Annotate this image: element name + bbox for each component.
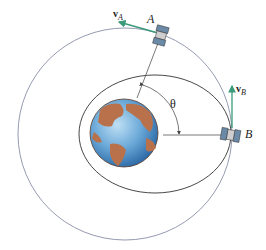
velocity-a-subscript: A — [118, 13, 123, 22]
orbit-diagram: A B θ vA vB — [0, 0, 266, 250]
diagram-svg — [0, 0, 266, 250]
label-velocity-b: vB — [236, 84, 246, 97]
velocity-b-subscript: B — [241, 88, 246, 97]
label-velocity-a: vA — [113, 9, 123, 22]
label-point-b: B — [245, 128, 252, 140]
label-angle-theta: θ — [170, 98, 176, 110]
label-point-a: A — [147, 13, 154, 25]
satellite-a-icon — [153, 25, 170, 46]
satellite-b-icon — [220, 127, 241, 142]
earth — [90, 99, 158, 167]
radial-line-a — [137, 38, 160, 98]
